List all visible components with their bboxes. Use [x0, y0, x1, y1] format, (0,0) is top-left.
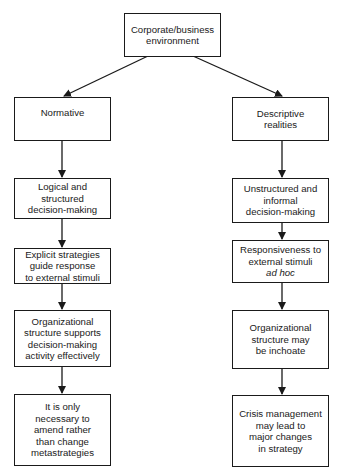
node-amend-metastrategies: It is only necessary to amend rather tha… — [14, 394, 111, 466]
node-label-wrapper: Responsiveness to external stimuli ad ho… — [240, 244, 321, 279]
node-explicit-strategies: Explicit strategies guide response to ex… — [14, 248, 111, 284]
node-organizational-structure-inchoate: Organizational structure may be inchoate — [232, 310, 329, 369]
node-crisis-management: Crisis management may lead to major chan… — [232, 395, 329, 467]
arrow-root-to-normative — [64, 56, 148, 96]
node-descriptive-realities: Descriptive realities — [232, 97, 329, 141]
node-label: Responsiveness to external stimuli — [240, 244, 321, 267]
node-label: Organizational structure supports decisi… — [24, 316, 101, 362]
node-logical-structured-decision-making: Logical and structured decision-making — [14, 178, 111, 219]
node-label: Organizational structure may be inchoate — [250, 322, 312, 357]
node-unstructured-informal-decision-making: Unstructured and informal decision-makin… — [232, 178, 329, 223]
node-label: Logical and structured decision-making — [28, 181, 97, 216]
node-label: Normative — [41, 107, 85, 119]
node-label: It is only necessary to amend rather tha… — [31, 401, 94, 459]
node-organizational-structure-supports: Organizational structure supports decisi… — [14, 310, 111, 367]
arrow-root-to-descriptive — [193, 56, 282, 96]
node-corporate-business-environment: Corporate/business environment — [124, 13, 221, 57]
node-normative: Normative — [14, 97, 111, 141]
node-label: Corporate/business environment — [131, 24, 214, 47]
node-label-italic: ad hoc — [240, 267, 321, 279]
node-responsiveness-ad-hoc: Responsiveness to external stimuli ad ho… — [232, 240, 329, 283]
node-label: Explicit strategies guide response to ex… — [25, 249, 100, 284]
node-label: Crisis management may lead to major chan… — [239, 408, 322, 454]
node-label: Unstructured and informal decision-makin… — [244, 183, 318, 218]
node-label: Descriptive realities — [257, 108, 304, 131]
